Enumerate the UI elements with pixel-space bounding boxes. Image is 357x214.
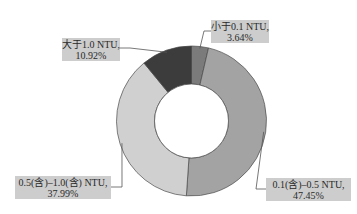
leader-line — [111, 143, 122, 187]
data-label-category: 小于0.1 NTU, — [211, 21, 269, 32]
data-label-value: 3.64% — [227, 32, 253, 43]
leader-line — [200, 31, 211, 48]
data-label-0.5-to-1.0: 0.5(含)–1.0(含) NTU, 37.99% — [15, 176, 111, 199]
data-label-category: 大于1.0 NTU, — [62, 38, 120, 50]
data-label-0.1-to-0.5: 0.1(含)–0.5 NTU, 47.45% — [266, 178, 351, 201]
leader-line — [120, 48, 167, 52]
donut-hole — [155, 84, 229, 158]
data-label-greater-than-1.0: 大于1.0 NTU, 10.92% — [62, 38, 120, 61]
data-label-less-than-0.1: 小于0.1 NTU, 3.64% — [211, 20, 269, 43]
data-label-value: 47.45% — [293, 190, 324, 201]
data-label-value: 10.92% — [76, 50, 107, 61]
data-label-value: 37.99% — [48, 188, 79, 199]
donut-chart: 小于0.1 NTU, 3.64% 0.1(含)–0.5 NTU, 47.45% … — [0, 0, 357, 214]
